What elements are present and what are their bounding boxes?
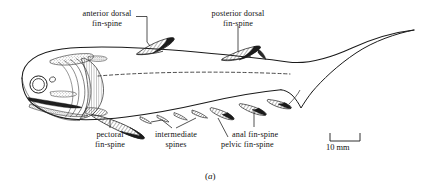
label-anal-fin-spine: anal fin-spine [232,130,278,140]
eye-inner-ring [33,79,45,91]
label-posterior-dorsal-line2: fin-spine [204,19,272,29]
leader-intermediate-a [151,120,172,128]
label-anterior-dorsal-line1: anterior dorsal [76,9,138,19]
label-pectoral-fin-spine: pectoral fin-spine [82,130,138,149]
anal-fin-spine-shape [239,104,266,116]
label-posterior-dorsal-line1: posterior dorsal [204,9,272,19]
scale-bar-label: 10 mm [326,143,350,152]
label-pectoral-line1: pectoral [82,130,138,140]
lateral-line [98,72,290,76]
figure-caption: (a) [205,171,216,181]
postorbital-ossicle [49,76,57,83]
intermediate-spine-1 [140,117,151,124]
label-intermediate-line2: spines [146,140,206,150]
label-intermediate-line1: intermediate [146,130,206,140]
label-pectoral-line2: fin-spine [82,140,138,150]
intermediate-spines-shapes [140,110,208,124]
shoulder-girdle [85,108,107,116]
label-anal-line1: anal fin-spine [232,130,278,140]
label-anterior-dorsal-line2: fin-spine [76,19,138,29]
label-pelvic-fin-spine: pelvic fin-spine [221,140,274,150]
fish-anatomy-figure [0,0,434,195]
label-intermediate-spines: intermediate spines [146,130,206,149]
intermediate-spine-3 [174,113,187,120]
intermediate-spine-4 [192,110,208,118]
fish-body-group [22,30,414,139]
caption-close-paren: ) [213,171,216,181]
label-pelvic-line1: pelvic fin-spine [221,140,274,150]
anterior-dorsal-fin-spine-shape [136,38,174,55]
label-posterior-dorsal-fin-spine: posterior dorsal fin-spine [204,9,272,28]
body-outline [22,30,414,120]
leader-anterior-dorsal [136,17,150,47]
head-group [22,54,107,121]
scale-bar [330,133,360,141]
leader-pelvic [218,118,228,137]
pelvic-fin-spine-shape [210,108,234,120]
postorbital-plate [88,56,107,62]
label-anterior-dorsal-fin-spine: anterior dorsal fin-spine [76,9,138,28]
posterior-ventral-spine-shape [267,90,300,109]
